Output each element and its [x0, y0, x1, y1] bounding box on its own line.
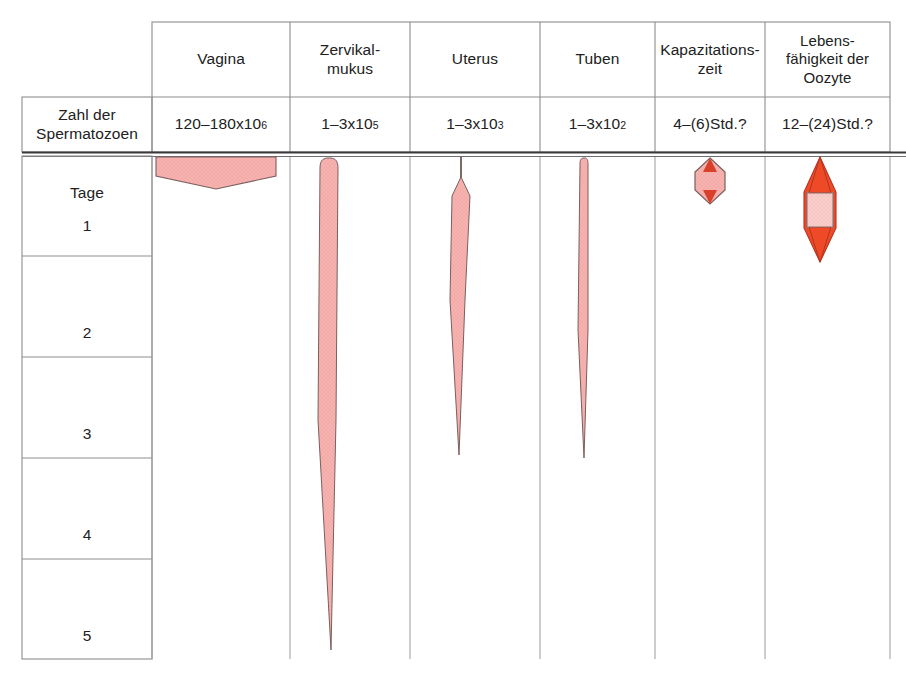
shape-zervikalmukus: [318, 158, 338, 650]
time-axis-grid: [22, 156, 152, 659]
body-column-separators: [152, 157, 890, 659]
baseline-rule: [22, 153, 906, 157]
shape-kapazitationszeit: [695, 158, 725, 204]
figure-canvas: [0, 0, 906, 677]
spermatozoa-transport-figure: Vagina Zervikal- mukus Uterus Tuben Kapa…: [0, 0, 906, 677]
shape-vagina: [156, 157, 276, 189]
shape-oozyte: [804, 157, 836, 262]
shape-uterus: [450, 157, 470, 455]
table-grid: [22, 22, 890, 152]
shape-tuben: [578, 158, 588, 458]
